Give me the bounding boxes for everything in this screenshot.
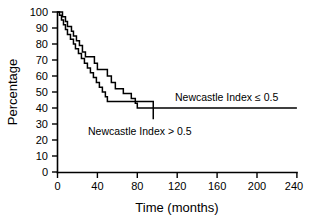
y-tick-label-100: 100: [30, 6, 48, 18]
y-tick-label-30: 30: [36, 118, 48, 130]
survival-chart: 100 90 80 70 60 50 40 30 20 10 0 Percent…: [0, 0, 314, 221]
series-annotations: Newcastle Index ≤ 0.5 Newcastle Index > …: [88, 91, 278, 137]
y-axis-ticks: [52, 12, 58, 172]
x-tick-label-0: 0: [54, 180, 60, 192]
y-axis: 100 90 80 70 60 50 40 30 20 10 0 Percent…: [5, 6, 58, 178]
chart-canvas: 100 90 80 70 60 50 40 30 20 10 0 Percent…: [0, 0, 314, 221]
x-tick-label-80: 80: [131, 180, 143, 192]
y-tick-label-80: 80: [36, 38, 48, 50]
x-axis: 0 40 80 120 160 200 240 Time (months): [54, 173, 303, 216]
y-tick-label-40: 40: [36, 102, 48, 114]
label-newcastle-index-le: Newcastle Index ≤ 0.5: [175, 91, 278, 103]
x-tick-label-200: 200: [248, 180, 266, 192]
x-tick-label-120: 120: [168, 180, 186, 192]
x-axis-tick-labels: 0 40 80 120 160 200 240: [54, 180, 303, 192]
label-newcastle-index-gt: Newcastle Index > 0.5: [88, 125, 192, 137]
x-axis-ticks: [58, 173, 297, 179]
x-tick-label-40: 40: [91, 180, 103, 192]
y-tick-label-20: 20: [36, 134, 48, 146]
y-axis-title: Percentage: [5, 59, 20, 126]
x-tick-label-240: 240: [285, 180, 303, 192]
y-tick-label-10: 10: [36, 150, 48, 162]
x-axis-title: Time (months): [135, 200, 218, 215]
y-tick-label-70: 70: [36, 54, 48, 66]
y-tick-label-60: 60: [36, 70, 48, 82]
y-axis-tick-labels: 100 90 80 70 60 50 40 30 20 10 0: [30, 6, 48, 178]
y-tick-label-90: 90: [36, 22, 48, 34]
y-tick-label-0: 0: [42, 166, 48, 178]
x-tick-label-160: 160: [208, 180, 226, 192]
plot-series: [58, 12, 297, 119]
y-tick-label-50: 50: [36, 86, 48, 98]
